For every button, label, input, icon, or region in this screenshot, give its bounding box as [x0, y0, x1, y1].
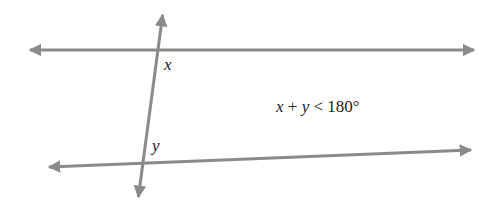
parallel-postulate-diagram: x y x + y < 180°	[0, 0, 498, 209]
equation-relation: <	[309, 97, 327, 116]
equation-var-y: y	[300, 97, 310, 116]
angle-label-y: y	[150, 136, 160, 155]
equation-plus: +	[284, 97, 302, 116]
equation-value: 180°	[327, 97, 359, 116]
angle-label-x: x	[163, 55, 172, 74]
angle-sum-equation: x + y < 180°	[275, 97, 360, 116]
bottom-line	[49, 150, 471, 167]
transversal-line	[138, 15, 162, 197]
